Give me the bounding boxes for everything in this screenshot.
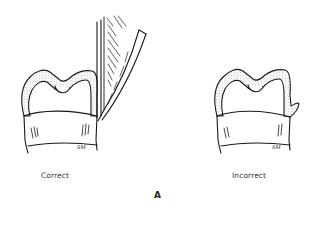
crown-shell: [22, 70, 98, 116]
caption-correct: Correct: [41, 171, 69, 180]
signature-correct: SM: [77, 144, 86, 150]
tooth-correct: SM: [22, 70, 98, 153]
panel-label: A: [154, 190, 161, 200]
signature-incorrect: SM: [272, 144, 281, 150]
instrument: [97, 16, 146, 121]
crown-shell-incorrect: [215, 69, 299, 117]
tooth-incorrect: SM: [215, 69, 299, 153]
caption-incorrect: Incorrect: [232, 171, 266, 180]
